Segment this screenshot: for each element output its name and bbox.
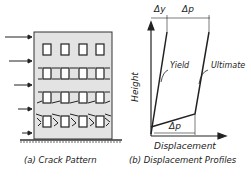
building — [5, 32, 122, 142]
y-axis-label: Height — [130, 72, 140, 102]
displacement-plot — [148, 15, 226, 139]
caption-b: (b) Displacement Profiles — [129, 155, 236, 165]
delta-p-bottom-label: Δp — [169, 121, 181, 131]
delta-y-label: Δy — [154, 4, 165, 14]
lateral-load-arrows — [5, 35, 32, 135]
x-axis-label: Displacement — [154, 141, 216, 151]
delta-p-top-label: Δp — [182, 4, 194, 14]
caption-a: (a) Crack Pattern — [24, 155, 97, 165]
yield-label: Yield — [170, 61, 189, 70]
ultimate-label: Ultimate — [211, 61, 245, 70]
